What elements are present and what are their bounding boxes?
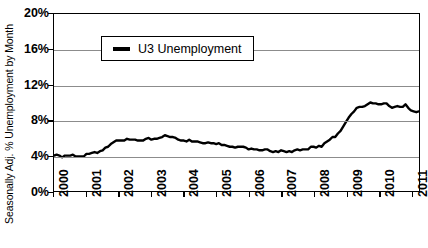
legend-swatch-u3-unemployment bbox=[113, 47, 130, 51]
x-tick-label-2003: 2003 bbox=[156, 169, 169, 197]
y-tick-label-0%: 0% bbox=[18, 186, 49, 199]
y-axis-tick-labels: 0%4%8%12%16%20% bbox=[18, 0, 49, 248]
x-tick-label-2005: 2005 bbox=[221, 169, 234, 197]
x-tick-label-2009: 2009 bbox=[352, 169, 365, 197]
y-tick-label-20%: 20% bbox=[18, 7, 49, 20]
legend: U3 Unemployment bbox=[101, 36, 254, 61]
unemployment-line-chart: Seasonally Adj. % Unemployment by Month … bbox=[0, 0, 428, 248]
x-tick-label-2007: 2007 bbox=[286, 169, 299, 197]
x-tick-label-2010: 2010 bbox=[384, 169, 397, 197]
y-tick-label-16%: 16% bbox=[18, 43, 49, 56]
y-tick-label-12%: 12% bbox=[18, 78, 49, 91]
x-tick-label-2002: 2002 bbox=[123, 169, 136, 197]
x-axis-tick-labels: 2000200120022003200420052006200720082009… bbox=[53, 197, 420, 248]
x-tick-label-2008: 2008 bbox=[319, 169, 332, 197]
gridline-12 bbox=[54, 86, 419, 87]
y-tick-label-8%: 8% bbox=[18, 114, 49, 127]
x-tick-label-2006: 2006 bbox=[254, 169, 267, 197]
x-tick-label-2000: 2000 bbox=[58, 169, 71, 197]
y-tick-label-4%: 4% bbox=[18, 150, 49, 163]
gridline-8 bbox=[54, 121, 419, 122]
y-axis-title: Seasonally Adj. % Unemployment by Month bbox=[0, 0, 18, 248]
series-line-u3-unemployment bbox=[54, 103, 419, 158]
legend-label-u3-unemployment: U3 Unemployment bbox=[138, 42, 242, 56]
gridline-4 bbox=[54, 157, 419, 158]
x-tick-label-2011: 2011 bbox=[417, 170, 428, 197]
x-tick-label-2004: 2004 bbox=[188, 169, 201, 197]
x-tick-label-2001: 2001 bbox=[91, 169, 104, 197]
